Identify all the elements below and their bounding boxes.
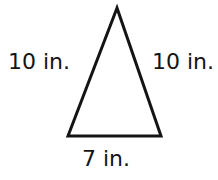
right-side-length-label: 10 in. (148, 51, 218, 73)
base-length-label: 7 in. (71, 148, 141, 170)
triangle-diagram: 10 in. 10 in. 7 in. (0, 0, 218, 180)
left-side-length-label: 10 in. (4, 51, 74, 73)
